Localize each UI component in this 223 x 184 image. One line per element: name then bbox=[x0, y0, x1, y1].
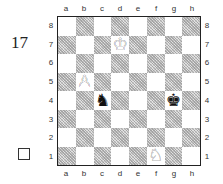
square-d8[interactable] bbox=[111, 17, 129, 36]
square-f2[interactable] bbox=[147, 128, 165, 147]
square-h1[interactable] bbox=[182, 147, 200, 166]
square-g3[interactable] bbox=[165, 110, 183, 129]
square-g7[interactable] bbox=[165, 36, 183, 55]
square-d4[interactable] bbox=[111, 91, 129, 110]
square-g1[interactable] bbox=[165, 147, 183, 166]
square-b2[interactable] bbox=[76, 128, 94, 147]
file-label-c: c bbox=[93, 169, 111, 178]
rank-label-6: 6 bbox=[203, 58, 211, 67]
square-d3[interactable] bbox=[111, 110, 129, 129]
white-pawn-icon[interactable]: ♙ bbox=[77, 73, 92, 90]
square-c2[interactable] bbox=[94, 128, 112, 147]
square-f1[interactable]: ♘ bbox=[147, 147, 165, 166]
square-b3[interactable] bbox=[76, 110, 94, 129]
square-f6[interactable] bbox=[147, 54, 165, 73]
square-b7[interactable] bbox=[76, 36, 94, 55]
rank-label-5: 5 bbox=[203, 77, 211, 86]
square-e2[interactable] bbox=[129, 128, 147, 147]
black-knight-icon[interactable]: ♞ bbox=[95, 92, 110, 109]
square-h7[interactable] bbox=[182, 36, 200, 55]
file-label-b: b bbox=[75, 169, 93, 178]
square-f4[interactable] bbox=[147, 91, 165, 110]
square-e3[interactable] bbox=[129, 110, 147, 129]
rank-label-7: 7 bbox=[203, 40, 211, 49]
square-e8[interactable] bbox=[129, 17, 147, 36]
black-king-icon[interactable]: ♚ bbox=[166, 92, 181, 109]
file-label-e: e bbox=[129, 169, 147, 178]
file-label-f: f bbox=[147, 4, 165, 13]
square-a1[interactable] bbox=[58, 147, 76, 166]
rank-label-7: 7 bbox=[47, 40, 55, 49]
file-label-d: d bbox=[111, 4, 129, 13]
square-d5[interactable] bbox=[111, 73, 129, 92]
rank-label-4: 4 bbox=[203, 96, 211, 105]
square-f7[interactable] bbox=[147, 36, 165, 55]
problem-number: 17 bbox=[11, 34, 28, 51]
square-d1[interactable] bbox=[111, 147, 129, 166]
rank-label-3: 3 bbox=[47, 115, 55, 124]
square-b1[interactable] bbox=[76, 147, 94, 166]
square-a4[interactable] bbox=[58, 91, 76, 110]
rank-label-8: 8 bbox=[47, 21, 55, 30]
square-f8[interactable] bbox=[147, 17, 165, 36]
square-h4[interactable] bbox=[182, 91, 200, 110]
file-label-f: f bbox=[147, 169, 165, 178]
square-a8[interactable] bbox=[58, 17, 76, 36]
square-a5[interactable] bbox=[58, 73, 76, 92]
file-label-h: h bbox=[183, 169, 201, 178]
square-c1[interactable] bbox=[94, 147, 112, 166]
square-d7[interactable]: ♔ bbox=[111, 36, 129, 55]
square-h8[interactable] bbox=[182, 17, 200, 36]
file-label-e: e bbox=[129, 4, 147, 13]
square-f3[interactable] bbox=[147, 110, 165, 129]
square-b6[interactable] bbox=[76, 54, 94, 73]
rank-label-5: 5 bbox=[47, 77, 55, 86]
file-label-a: a bbox=[57, 169, 75, 178]
square-d2[interactable] bbox=[111, 128, 129, 147]
rank-label-1: 1 bbox=[47, 152, 55, 161]
chess-board: ♔♙♞♚♘ bbox=[57, 16, 201, 166]
square-c8[interactable] bbox=[94, 17, 112, 36]
rank-labels-left: 87654321 bbox=[47, 16, 55, 166]
square-g4[interactable]: ♚ bbox=[165, 91, 183, 110]
square-g6[interactable] bbox=[165, 54, 183, 73]
rank-label-3: 3 bbox=[203, 115, 211, 124]
file-label-g: g bbox=[165, 169, 183, 178]
square-h2[interactable] bbox=[182, 128, 200, 147]
square-g8[interactable] bbox=[165, 17, 183, 36]
square-b5[interactable]: ♙ bbox=[76, 73, 94, 92]
square-h6[interactable] bbox=[182, 54, 200, 73]
square-a3[interactable] bbox=[58, 110, 76, 129]
square-c7[interactable] bbox=[94, 36, 112, 55]
square-h3[interactable] bbox=[182, 110, 200, 129]
square-d6[interactable] bbox=[111, 54, 129, 73]
white-king-icon[interactable]: ♔ bbox=[113, 36, 128, 53]
white-knight-icon[interactable]: ♘ bbox=[148, 147, 163, 164]
square-g2[interactable] bbox=[165, 128, 183, 147]
square-b8[interactable] bbox=[76, 17, 94, 36]
square-c3[interactable] bbox=[94, 110, 112, 129]
rank-label-2: 2 bbox=[47, 133, 55, 142]
rank-label-1: 1 bbox=[203, 152, 211, 161]
square-f5[interactable] bbox=[147, 73, 165, 92]
file-label-a: a bbox=[57, 4, 75, 13]
solved-checkbox[interactable] bbox=[18, 148, 30, 160]
file-labels-top: abcdefgh bbox=[57, 4, 201, 13]
square-e1[interactable] bbox=[129, 147, 147, 166]
square-a2[interactable] bbox=[58, 128, 76, 147]
square-e4[interactable] bbox=[129, 91, 147, 110]
square-a6[interactable] bbox=[58, 54, 76, 73]
square-g5[interactable] bbox=[165, 73, 183, 92]
file-label-h: h bbox=[183, 4, 201, 13]
square-a7[interactable] bbox=[58, 36, 76, 55]
square-h5[interactable] bbox=[182, 73, 200, 92]
file-label-d: d bbox=[111, 169, 129, 178]
square-b4[interactable] bbox=[76, 91, 94, 110]
square-e5[interactable] bbox=[129, 73, 147, 92]
square-c6[interactable] bbox=[94, 54, 112, 73]
square-c4[interactable]: ♞ bbox=[94, 91, 112, 110]
file-labels-bottom: abcdefgh bbox=[57, 169, 201, 178]
square-c5[interactable] bbox=[94, 73, 112, 92]
square-e6[interactable] bbox=[129, 54, 147, 73]
square-e7[interactable] bbox=[129, 36, 147, 55]
